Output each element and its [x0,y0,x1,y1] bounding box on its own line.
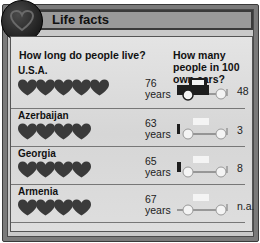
life-expectancy-question: How long do people live? [19,49,146,61]
heart-icon [36,199,55,217]
row-divider [11,108,245,109]
hearts-group [18,79,108,97]
life-expectancy-value: 63 years [145,118,171,140]
heart-icon [54,161,73,179]
row-divider [11,222,245,223]
heart-icon [18,123,37,141]
heart-icon [72,123,91,141]
heart-icon [10,10,34,32]
hearts-group [18,199,90,217]
car-icon-full [171,75,235,101]
table-row-armenia: Armenia 67 years n.a. [11,186,245,226]
table-row-usa: U.S.A. 76 years 48 [11,65,245,105]
car-icon-small [171,152,235,178]
country-label: U.S.A. [18,65,47,76]
heart-icon [54,199,73,217]
country-label: Azerbaijan [18,110,69,121]
heart-icon [18,79,37,97]
heart-icon [90,79,109,97]
row-divider [11,146,245,147]
hearts-group [18,161,90,179]
heart-icon [36,123,55,141]
life-expectancy-value: 67 years [145,194,171,216]
heart-icon [18,161,37,179]
car-ownership-value: 48 [237,85,249,97]
car-icon-tiny [171,114,235,140]
heart-icon [36,79,55,97]
heart-icon [36,161,55,179]
row-divider [11,184,245,185]
life-expectancy-value: 76 years [145,78,171,100]
country-label: Georgia [18,148,56,159]
heart-icon [72,161,91,179]
content-panel: How long do people live? How many people… [10,36,253,232]
car-ownership-value: 8 [237,162,243,174]
life-expectancy-value: 65 years [145,156,171,178]
car-ownership-value: n.a. [237,200,255,212]
heart-icon [72,199,91,217]
heart-icon [18,199,37,217]
heart-icon [54,79,73,97]
car-icon-empty [171,190,235,216]
chart-title: Life facts [52,12,109,27]
table-row-georgia: Georgia 65 years 8 [11,148,245,188]
table-row-azerbaijan: Azerbaijan 63 years 3 [11,110,245,150]
car-ownership-value: 3 [237,124,243,136]
country-label: Armenia [18,186,58,197]
hearts-group [18,123,90,141]
heart-icon [54,123,73,141]
heart-icon [72,79,91,97]
